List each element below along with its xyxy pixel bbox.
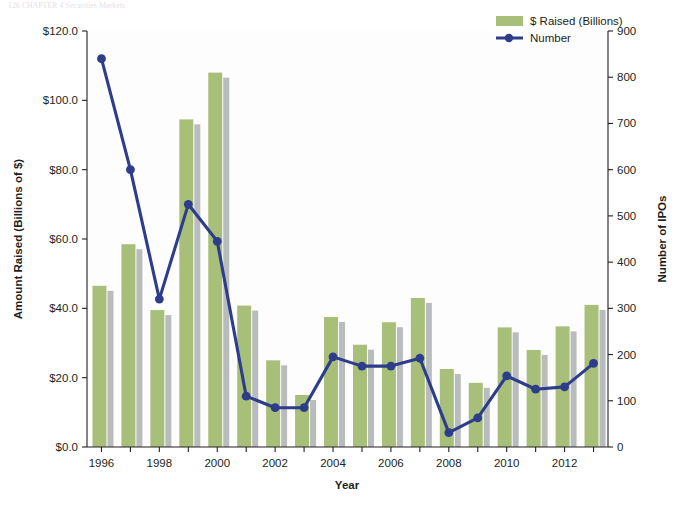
x-tick-label-2006: 2006 (378, 457, 404, 469)
left-axis-ticks: $0.0$20.0$40.0$60.0$80.0$100.0$120.0 (43, 25, 87, 453)
x-tick-label-2012: 2012 (552, 457, 578, 469)
bar-raised-2007 (411, 298, 425, 447)
legend-swatch-raised (496, 16, 523, 26)
bar-raised-2004 (324, 317, 338, 447)
data-point-number-2012 (560, 383, 569, 392)
data-point-number-2011 (531, 385, 540, 394)
x-tick-label-1996: 1996 (89, 457, 115, 469)
right-tick-label: 800 (617, 71, 636, 83)
left-tick-label: $60.0 (49, 233, 78, 245)
right-tick-label: 200 (617, 349, 636, 361)
x-tick-label-2000: 2000 (204, 457, 230, 469)
bar-raised-2001 (237, 306, 251, 447)
right-tick-label: 500 (617, 210, 636, 222)
bar-raised-1998 (150, 310, 164, 447)
page-header-bleedthrough: 126 CHAPTER 4 Securities Markets (8, 1, 683, 10)
bar-shadow (484, 388, 490, 447)
bar-shadow (252, 311, 258, 447)
x-tick-label-2010: 2010 (494, 457, 520, 469)
left-tick-label: $40.0 (49, 302, 78, 314)
right-tick-label: 300 (617, 302, 636, 314)
bar-shadow (455, 374, 461, 447)
bar-shadow (339, 322, 345, 447)
data-point-number-2005 (358, 362, 367, 371)
bar-shadow (368, 350, 374, 447)
bar-shadow (194, 124, 200, 447)
bar-shadow (542, 355, 548, 447)
left-tick-label: $0.0 (56, 441, 78, 453)
x-axis-title: Year (335, 479, 360, 491)
data-point-number-2002 (271, 403, 280, 412)
data-point-number-1998 (155, 295, 164, 304)
data-point-number-2001 (242, 392, 251, 401)
ipo-chart: $0.0$20.0$40.0$60.0$80.0$100.0$120.0 010… (0, 0, 683, 509)
data-point-number-2003 (300, 403, 309, 412)
data-point-number-2008 (444, 428, 453, 437)
x-tick-label-2002: 2002 (262, 457, 288, 469)
legend-label-raised: $ Raised (Billions) (530, 15, 623, 27)
x-tick-label-2008: 2008 (436, 457, 462, 469)
bar-shadow (513, 332, 519, 447)
bar-raised-1999 (179, 119, 193, 447)
data-point-number-2013 (589, 359, 598, 368)
y-axis-title: Amount Raised (Billions of $) (12, 159, 24, 320)
bar-shadow (571, 331, 577, 447)
bar-shadow (223, 78, 229, 447)
right-tick-label: 600 (617, 164, 636, 176)
x-axis-ticks: 199619982000200220042006200820102012 (89, 447, 594, 469)
right-tick-label: 700 (617, 117, 636, 129)
bar-raised-1996 (92, 286, 106, 447)
right-tick-label: 0 (617, 441, 623, 453)
data-point-number-2004 (329, 352, 338, 361)
left-tick-label: $100.0 (43, 94, 78, 106)
bar-raised-2013 (585, 305, 599, 447)
legend-label-number: Number (530, 32, 571, 44)
bar-raised-1997 (121, 244, 135, 447)
x-tick-label-1998: 1998 (147, 457, 173, 469)
data-point-number-1999 (184, 200, 193, 209)
left-tick-label: $120.0 (43, 25, 78, 37)
chart-container: 126 CHAPTER 4 Securities Markets $0.0$20… (0, 0, 683, 509)
x-tick-label-2004: 2004 (320, 457, 346, 469)
y2-axis-title: Number of IPOs (656, 196, 668, 283)
bar-raised-2005 (353, 345, 367, 447)
bar-raised-2006 (382, 322, 396, 447)
left-tick-label: $20.0 (49, 372, 78, 384)
bar-shadow (310, 400, 316, 447)
left-tick-label: $80.0 (49, 164, 78, 176)
data-point-number-2007 (415, 354, 424, 363)
data-point-number-2006 (387, 362, 396, 371)
right-tick-label: 100 (617, 395, 636, 407)
bar-shadow (600, 310, 606, 447)
data-point-number-2009 (473, 413, 482, 422)
bar-raised-2011 (527, 350, 541, 447)
right-axis-ticks: 0100200300400500600700800900 (608, 25, 636, 453)
bar-shadow (136, 249, 142, 447)
bar-shadow (165, 315, 171, 447)
data-point-number-1996 (97, 54, 106, 63)
data-point-number-1997 (126, 165, 135, 174)
bar-shadow (107, 291, 113, 447)
legend-marker-number (505, 34, 513, 42)
data-point-number-2000 (213, 237, 222, 246)
bar-shadow (397, 327, 403, 447)
right-tick-label: 400 (617, 256, 636, 268)
data-point-number-2010 (502, 371, 511, 380)
